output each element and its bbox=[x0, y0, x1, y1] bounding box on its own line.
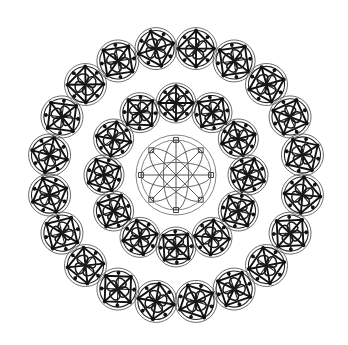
artwork-canvas bbox=[0, 0, 348, 345]
endpoint-node bbox=[183, 58, 187, 62]
small-mandala bbox=[64, 63, 107, 106]
endpoint-node bbox=[174, 118, 178, 122]
endpoint-node bbox=[185, 90, 189, 94]
endpoint-node bbox=[183, 35, 187, 39]
endpoint-node bbox=[206, 35, 210, 39]
endpoint-node bbox=[194, 29, 198, 33]
endpoint-node bbox=[194, 65, 198, 69]
small-mandala bbox=[175, 28, 217, 70]
endpoint-node bbox=[163, 90, 167, 94]
endpoint-node bbox=[174, 84, 178, 88]
center-rosette bbox=[136, 135, 216, 215]
endpoint-node bbox=[206, 58, 210, 62]
mandala-pattern-svg bbox=[0, 0, 348, 345]
endpoint-node bbox=[212, 47, 216, 51]
endpoint-node bbox=[185, 112, 189, 116]
center-rosette-group bbox=[136, 135, 216, 215]
endpoint-node bbox=[163, 112, 167, 116]
small-mandala bbox=[156, 83, 196, 123]
